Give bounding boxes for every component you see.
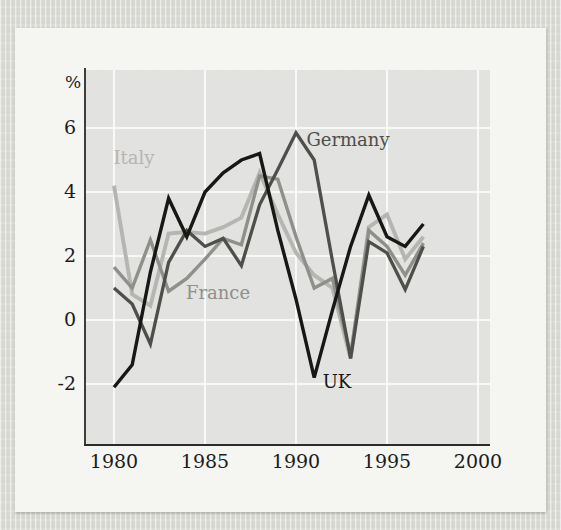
x-tick-label-1995: 1995 bbox=[363, 450, 411, 472]
x-axis-tick-labels: 19801985199019952000 bbox=[90, 450, 502, 472]
y-tick-label--2: -2 bbox=[57, 372, 76, 394]
italy-label: Italy bbox=[113, 147, 155, 168]
y-tick-label-4: 4 bbox=[64, 180, 76, 202]
y-axis-unit-label: % bbox=[65, 72, 81, 92]
france-label: France bbox=[186, 282, 250, 303]
plot-area bbox=[85, 70, 490, 445]
y-tick-label-0: 0 bbox=[64, 308, 76, 330]
x-tick-label-1990: 1990 bbox=[272, 450, 320, 472]
x-tick-label-1985: 1985 bbox=[181, 450, 229, 472]
x-tick-label-1980: 1980 bbox=[90, 450, 138, 472]
y-tick-label-2: 2 bbox=[64, 244, 76, 266]
germany-label: Germany bbox=[306, 129, 390, 150]
y-tick-label-6: 6 bbox=[64, 116, 76, 138]
line-chart: % 6420-2 19801985199019952000 ItalyFranc… bbox=[0, 0, 561, 530]
y-axis-tick-labels: 6420-2 bbox=[57, 116, 76, 394]
uk-label: UK bbox=[323, 371, 352, 392]
page-background: % 6420-2 19801985199019952000 ItalyFranc… bbox=[0, 0, 561, 530]
x-tick-label-2000: 2000 bbox=[454, 450, 502, 472]
